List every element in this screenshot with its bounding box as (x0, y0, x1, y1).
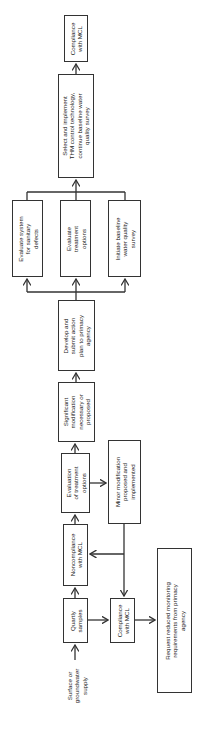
node-significant-modification: Significant modification necessary or pr… (58, 382, 95, 442)
start-label: Surface or groundwater supply (62, 660, 92, 712)
node-select-implement-thm: Select and implement THM control technol… (58, 74, 94, 178)
node-noncompliance: Noncompliance with MCL (63, 524, 88, 586)
node-initiate-baseline-survey: Initiate baseline water quality survey (108, 200, 141, 277)
node-quarterly-samples: Quartly samples (63, 598, 88, 643)
node-evaluate-sanitary-defects: Evaluate system for sanitary defects (12, 200, 43, 277)
node-minor-modification: Minor modification proposed and implemen… (108, 440, 141, 524)
node-evaluate-treatment-options: Evaluate treatment options (60, 200, 91, 277)
node-request-reduced-monitoring: Request reduced monitoring requirements … (157, 548, 192, 693)
node-evaluation-treatment-options: Evaluation of treatment options (61, 453, 90, 513)
node-compliance-low: Compliance with MCL (110, 598, 135, 643)
node-compliance-top: Compliance with MCL (64, 15, 88, 62)
node-develop-action-plan: Develop and submit action plan to primac… (58, 300, 95, 371)
